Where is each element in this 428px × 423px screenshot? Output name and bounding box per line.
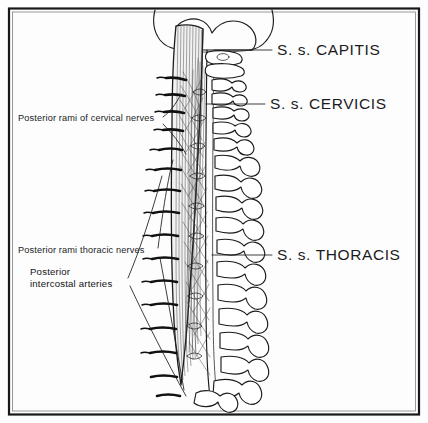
figure-canvas: S. s. CAPITIS S. s. CERVICIS S. s. THORA… xyxy=(0,0,428,423)
label-posterior-intercostal-arteries-line1: Posterior xyxy=(30,266,71,277)
label-posterior-intercostal-arteries-line2: intercostal arteries xyxy=(30,278,112,289)
anatomical-figure-plate: S. s. CAPITIS S. s. CERVICIS S. s. THORA… xyxy=(0,0,428,423)
label-semispinalis-capitis: S. s. CAPITIS xyxy=(277,41,380,58)
label-posterior-rami-cervical-nerves: Posterior rami of cervical nerves xyxy=(18,113,154,123)
label-semispinalis-cervicis: S. s. CERVICIS xyxy=(270,95,387,112)
label-posterior-rami-thoracic-nerves: Posterior rami thoracic nerves xyxy=(18,245,145,255)
label-semispinalis-thoracis: S. s. THORACIS xyxy=(277,246,401,263)
